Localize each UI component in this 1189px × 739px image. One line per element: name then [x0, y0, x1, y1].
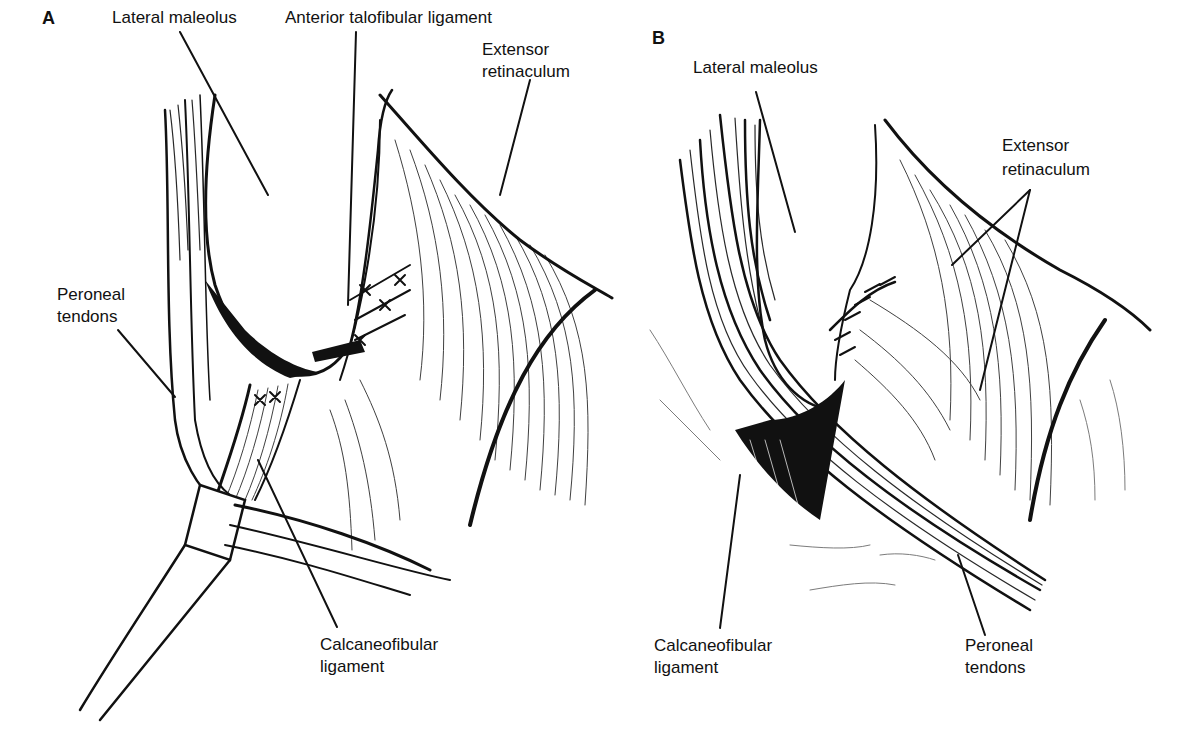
panel-b-leader-lines — [720, 92, 1030, 635]
anatomy-illustration — [0, 0, 1189, 739]
panel-a-drawing — [80, 90, 612, 720]
label-a-extensor-retinaculum-line2: retinaculum — [482, 62, 570, 82]
label-b-lateral-maleolus: Lateral maleolus — [693, 58, 818, 78]
label-a-extensor-retinaculum-line1: Extensor — [482, 40, 549, 60]
label-a-calcaneofibular-ligament-line2: ligament — [320, 657, 384, 677]
label-b-peroneal-tendons-line1: Peroneal — [965, 636, 1033, 656]
label-a-anterior-talofibular-ligament: Anterior talofibular ligament — [285, 8, 492, 28]
label-b-calcaneofibular-ligament-line2: ligament — [654, 658, 718, 678]
panel-a-letter: A — [42, 8, 55, 29]
label-a-calcaneofibular-ligament-line1: Calcaneofibular — [320, 635, 438, 655]
label-b-extensor-retinaculum-line2: retinaculum — [1002, 160, 1090, 180]
label-b-extensor-retinaculum-line1: Extensor — [1002, 136, 1069, 156]
panel-b-letter: B — [652, 28, 665, 49]
label-b-calcaneofibular-ligament-line1: Calcaneofibular — [654, 636, 772, 656]
label-b-peroneal-tendons-line2: tendons — [965, 658, 1026, 678]
label-a-lateral-maleolus: Lateral maleolus — [112, 8, 237, 28]
label-a-peroneal-tendons-line2: tendons — [57, 307, 118, 327]
label-a-peroneal-tendons-line1: Peroneal — [57, 285, 125, 305]
panel-b-drawing — [650, 115, 1150, 610]
